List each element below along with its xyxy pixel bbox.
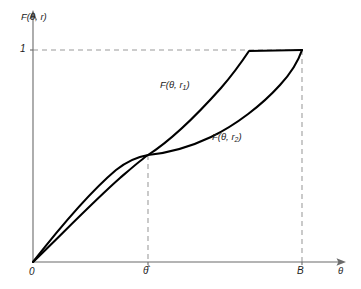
figure-canvas — [0, 0, 361, 289]
curve-label-r2-head: F(θ, r — [212, 131, 235, 142]
curve-label-r2-subscript: 2 — [235, 136, 239, 143]
y-axis-title: F(θ, r) — [21, 12, 47, 22]
curve-label-r1-subscript: 1 — [183, 84, 187, 91]
curve-label-r1-tail: ) — [186, 79, 189, 90]
curve-label-r2-tail: ) — [238, 131, 241, 142]
figure-container: F(θ, r) θ 1 0 θ̂ B F(θ, r1) F(θ, r2) — [0, 0, 361, 289]
x-tick-label-b: B — [297, 266, 304, 276]
origin-label: 0 — [29, 267, 35, 277]
x-tick-label-theta-hat: θ̂ — [143, 266, 148, 276]
curve-label-f-theta-r2: F(θ, r2) — [212, 132, 242, 142]
curve-label-f-theta-r1: F(θ, r1) — [160, 80, 190, 90]
curve-label-r1-head: F(θ, r — [160, 79, 183, 90]
x-axis-title: θ — [338, 266, 343, 276]
y-tick-label-one: 1 — [20, 44, 26, 54]
